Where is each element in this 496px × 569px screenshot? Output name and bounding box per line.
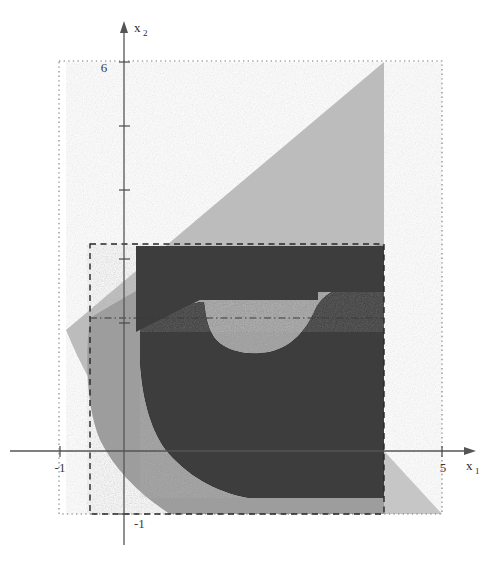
y-axis-arrowhead bbox=[120, 21, 128, 33]
x-tick-label-neg-one: -1 bbox=[55, 460, 66, 475]
x-axis-arrowhead bbox=[464, 447, 476, 455]
math-plot-figure: 6 -1 -1 5 x 2 x 1 bbox=[0, 0, 496, 569]
x-tick-label-5: 5 bbox=[440, 460, 447, 475]
y-axis-label: x bbox=[134, 20, 141, 35]
x-axis-label: x bbox=[466, 458, 473, 473]
y-axis-label-subscript: 2 bbox=[143, 28, 148, 38]
y-tick-label-neg-one: -1 bbox=[134, 516, 145, 531]
y-tick-label-6: 6 bbox=[101, 60, 108, 75]
plot-svg: 6 -1 -1 5 x 2 x 1 bbox=[0, 0, 496, 569]
x-axis-label-subscript: 1 bbox=[475, 466, 480, 476]
